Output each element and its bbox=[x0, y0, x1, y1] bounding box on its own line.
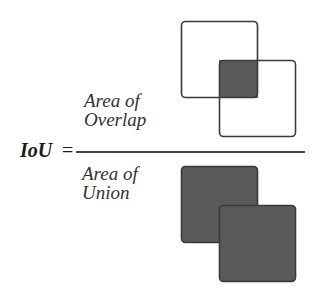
numerator-line1: Area of bbox=[84, 91, 140, 111]
union-join bbox=[221, 207, 256, 241]
iou-diagram: Area of Overlap IoU = Area of Union bbox=[0, 0, 316, 299]
numerator-line2: Overlap bbox=[84, 110, 146, 130]
denominator-line2: Union bbox=[82, 183, 130, 203]
overlap-illustration bbox=[182, 22, 296, 137]
denominator-line1: Area of bbox=[82, 164, 138, 184]
union-illustration bbox=[182, 167, 296, 282]
iou-label: IoU bbox=[20, 139, 52, 162]
equals-sign: = bbox=[62, 139, 73, 162]
fraction-line bbox=[76, 151, 305, 153]
overlap-region bbox=[219, 60, 258, 98]
